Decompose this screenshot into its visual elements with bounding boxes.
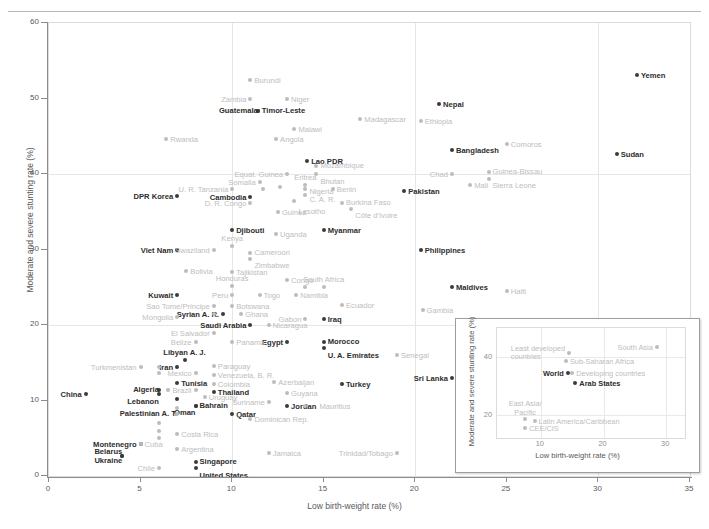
data-point[interactable]: [157, 421, 161, 425]
inset-data-point[interactable]: [655, 345, 659, 349]
data-point[interactable]: [487, 170, 491, 174]
data-point[interactable]: [274, 137, 278, 141]
inset-data-point[interactable]: [566, 371, 570, 375]
data-point[interactable]: [157, 392, 161, 396]
inset-data-point[interactable]: [564, 359, 568, 363]
data-point[interactable]: [437, 102, 441, 106]
data-point[interactable]: [139, 442, 143, 446]
data-point[interactable]: [285, 404, 289, 408]
data-point[interactable]: [421, 308, 425, 312]
data-point[interactable]: [294, 293, 298, 297]
data-point[interactable]: [139, 365, 143, 369]
data-point[interactable]: [292, 127, 296, 131]
data-point[interactable]: [157, 429, 161, 433]
data-point[interactable]: [340, 303, 344, 307]
data-point[interactable]: [450, 148, 454, 152]
data-point[interactable]: [194, 340, 198, 344]
data-point[interactable]: [248, 417, 252, 421]
data-point[interactable]: [267, 400, 271, 404]
data-point[interactable]: [505, 142, 509, 146]
data-point[interactable]: [248, 97, 252, 101]
data-point[interactable]: [340, 201, 344, 205]
data-point[interactable]: [230, 228, 234, 232]
data-point[interactable]: [248, 78, 252, 82]
data-point[interactable]: [285, 340, 289, 344]
data-point[interactable]: [157, 466, 161, 470]
data-point[interactable]: [230, 284, 234, 288]
data-point[interactable]: [395, 451, 399, 455]
data-point[interactable]: [272, 380, 276, 384]
data-point[interactable]: [175, 432, 179, 436]
data-point[interactable]: [212, 373, 216, 377]
data-point[interactable]: [292, 199, 296, 203]
data-point[interactable]: [212, 331, 216, 335]
data-point[interactable]: [175, 397, 179, 401]
data-point[interactable]: [84, 392, 88, 396]
data-point[interactable]: [274, 232, 278, 236]
inset-data-point[interactable]: [573, 381, 577, 385]
data-point[interactable]: [248, 201, 252, 205]
data-point[interactable]: [303, 187, 307, 191]
inset-data-point[interactable]: [523, 417, 527, 421]
data-point[interactable]: [248, 257, 252, 261]
data-point[interactable]: [194, 388, 198, 392]
data-point[interactable]: [322, 340, 326, 344]
data-point[interactable]: [166, 388, 170, 392]
data-point[interactable]: [267, 451, 271, 455]
data-point[interactable]: [468, 183, 472, 187]
data-point[interactable]: [258, 180, 262, 184]
data-point[interactable]: [261, 187, 265, 191]
data-point[interactable]: [212, 382, 216, 386]
data-point[interactable]: [175, 447, 179, 451]
data-point[interactable]: [402, 189, 406, 193]
data-point[interactable]: [194, 371, 198, 375]
data-point[interactable]: [248, 251, 252, 255]
data-point[interactable]: [164, 137, 168, 141]
inset-data-point[interactable]: [523, 426, 527, 430]
data-point[interactable]: [230, 304, 234, 308]
data-point[interactable]: [349, 207, 353, 211]
data-point[interactable]: [230, 187, 234, 191]
data-point[interactable]: [175, 194, 179, 198]
data-point[interactable]: [212, 364, 216, 368]
data-point[interactable]: [267, 323, 271, 327]
data-point[interactable]: [248, 195, 252, 199]
data-point[interactable]: [285, 97, 289, 101]
data-point[interactable]: [239, 312, 243, 316]
data-point[interactable]: [340, 382, 344, 386]
data-point[interactable]: [450, 172, 454, 176]
data-point[interactable]: [212, 304, 216, 308]
data-point[interactable]: [419, 119, 423, 123]
data-point[interactable]: [230, 412, 234, 416]
data-point[interactable]: [221, 312, 225, 316]
inset-data-point[interactable]: [567, 351, 571, 355]
data-point[interactable]: [322, 228, 326, 232]
data-point[interactable]: [285, 391, 289, 395]
data-point[interactable]: [305, 159, 309, 163]
data-point[interactable]: [276, 210, 280, 214]
data-point[interactable]: [314, 164, 318, 168]
data-point[interactable]: [635, 73, 639, 77]
data-point[interactable]: [322, 317, 326, 321]
data-point[interactable]: [303, 285, 307, 289]
data-point[interactable]: [358, 117, 362, 121]
data-point[interactable]: [322, 346, 326, 350]
data-point[interactable]: [615, 152, 619, 156]
data-point[interactable]: [285, 278, 289, 282]
data-point[interactable]: [183, 358, 187, 362]
data-point[interactable]: [450, 376, 454, 380]
data-point[interactable]: [450, 285, 454, 289]
inset-data-point[interactable]: [570, 371, 574, 375]
data-point[interactable]: [194, 460, 198, 464]
inset-data-point[interactable]: [533, 419, 537, 423]
data-point[interactable]: [278, 185, 282, 189]
data-point[interactable]: [230, 340, 234, 344]
data-point[interactable]: [230, 244, 234, 248]
data-point[interactable]: [419, 248, 423, 252]
data-point[interactable]: [194, 466, 198, 470]
data-point[interactable]: [212, 248, 216, 252]
data-point[interactable]: [248, 323, 252, 327]
data-point[interactable]: [331, 187, 335, 191]
data-point[interactable]: [157, 371, 161, 375]
data-point[interactable]: [303, 193, 307, 197]
